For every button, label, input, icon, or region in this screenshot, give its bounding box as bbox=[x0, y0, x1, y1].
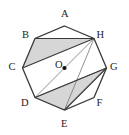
vertex-label-H: H bbox=[97, 30, 105, 41]
vertex-label-F: F bbox=[97, 98, 103, 109]
vertex-label-G: G bbox=[110, 62, 118, 73]
vertex-label-A: A bbox=[61, 9, 69, 20]
geometry-figure: A B C D E F G H O bbox=[0, 0, 129, 135]
vertex-label-C: C bbox=[9, 62, 16, 73]
center-point-dot bbox=[62, 66, 66, 70]
vertex-label-B: B bbox=[22, 30, 29, 41]
vertex-label-E: E bbox=[61, 119, 67, 130]
center-label-O: O bbox=[55, 60, 63, 71]
vertex-label-D: D bbox=[21, 98, 29, 109]
